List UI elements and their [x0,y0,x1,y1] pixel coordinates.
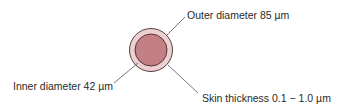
inner-diameter-label: Inner diameter 42 µm [13,80,113,92]
outer-diameter-leader [166,17,185,36]
skin-thickness-label: Skin thickness 0.1 − 1.0 µm [202,92,331,104]
inner-core [135,34,167,66]
inner-diameter-leader [114,63,138,83]
outer-diameter-label: Outer diameter 85 µm [187,9,289,21]
skin-thickness-leader [168,65,198,93]
